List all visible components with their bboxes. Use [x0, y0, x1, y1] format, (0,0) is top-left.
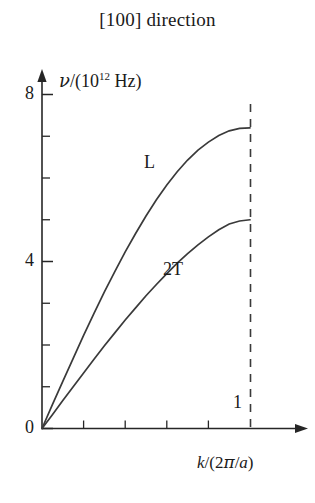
- phonon-dispersion-figure: [100] direction: [0, 0, 315, 503]
- curve-label-2T: 2T: [163, 259, 183, 280]
- x-axis-label-close: ): [248, 453, 254, 472]
- y-axis-label-exponent: 12: [99, 70, 110, 82]
- curve-label-L: L: [144, 152, 155, 173]
- curve-transverse-2T: [42, 220, 250, 429]
- y-tick-label-0: 0: [6, 417, 34, 438]
- plot-canvas: [0, 0, 315, 503]
- x-axis-label-a: a: [239, 453, 248, 472]
- x-tick-label-zone-boundary: 1: [233, 392, 242, 413]
- x-axis-label-open: /(2: [205, 453, 224, 472]
- y-axis-major-ticks: [42, 95, 53, 429]
- x-axis-arrowhead: [295, 424, 308, 433]
- y-tick-label-8: 8: [6, 83, 34, 104]
- y-tick-label-4: 4: [6, 250, 34, 271]
- y-axis-label-unit: Hz): [110, 71, 141, 91]
- x-axis-label: k/(2π/a): [197, 452, 254, 473]
- y-axis-label-symbol: ν: [59, 70, 70, 91]
- y-axis-arrowhead: [37, 69, 46, 82]
- axes-group: [37, 69, 308, 433]
- x-axis-label-k: k: [197, 453, 205, 472]
- y-axis-label: ν/(1012 Hz): [59, 70, 141, 92]
- x-axis-minor-ticks: [84, 421, 209, 429]
- x-axis-label-pi: π: [223, 452, 234, 472]
- y-axis-label-slash: /(10: [70, 71, 99, 91]
